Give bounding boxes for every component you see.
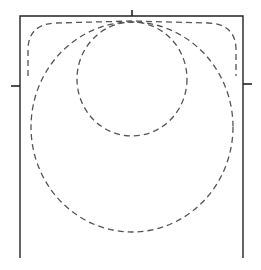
frame-outline (20, 16, 243, 258)
diagram (0, 0, 261, 270)
large-circle-curve (31, 22, 233, 232)
rounded-boundary-curve (28, 21, 236, 76)
small-circle-curve (77, 22, 187, 136)
figure-caption-cropped (6, 263, 256, 270)
